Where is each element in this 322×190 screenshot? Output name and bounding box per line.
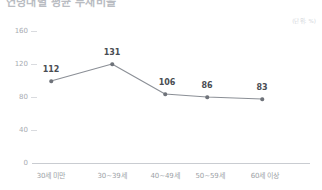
data-point-marker — [110, 62, 114, 66]
y-tick-dash-120 — [31, 64, 37, 65]
y-tick-label-0: 0 — [6, 159, 28, 167]
line-series — [0, 0, 322, 190]
data-point-marker — [205, 95, 209, 99]
data-point-marker — [260, 97, 264, 101]
plot-area: 160 120 80 40 0 112 131 106 86 83 30세 미만… — [0, 0, 322, 190]
chart-container: 연령대별 평균 부채비율 (단위: %) 160 120 80 40 0 112… — [0, 0, 322, 190]
y-tick-label-40: 40 — [6, 126, 28, 134]
data-value-label: 112 — [43, 65, 60, 74]
y-tick-dash-160 — [31, 31, 37, 32]
y-tick-label-160: 160 — [6, 27, 28, 35]
data-point-marker — [163, 92, 167, 96]
x-tick-label-3: 50~59세 — [195, 170, 224, 180]
x-tick-label-4: 60세 이상 — [251, 170, 280, 180]
x-tick-label-1: 30~39세 — [97, 170, 126, 180]
data-point-marker — [49, 79, 53, 83]
y-tick-dash-40 — [31, 130, 37, 131]
y-tick-label-80: 80 — [6, 93, 28, 101]
data-value-label: 83 — [256, 83, 267, 92]
x-tick-label-0: 30세 미만 — [37, 170, 66, 180]
y-tick-label-120: 120 — [6, 60, 28, 68]
x-axis-line — [32, 163, 310, 164]
y-tick-dash-80 — [31, 97, 37, 98]
data-value-label: 106 — [159, 78, 176, 87]
x-tick-label-2: 40~49세 — [150, 170, 179, 180]
data-value-label: 131 — [104, 48, 121, 57]
data-value-label: 86 — [201, 81, 212, 90]
